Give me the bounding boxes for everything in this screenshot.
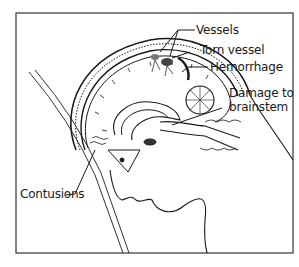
label-torn-vessel: Torn vessel — [200, 44, 264, 57]
head-injury-diagram — [0, 0, 299, 267]
label-hemorrhage: Hemorrhage — [210, 61, 283, 74]
label-damage-to: Damage to — [229, 87, 294, 100]
leader-lines — [66, 30, 222, 195]
label-brainstem: brainstem — [229, 101, 288, 114]
label-vessels: Vessels — [196, 24, 239, 37]
label-contusions: Contusions — [20, 188, 84, 201]
impact-surface — [29, 70, 129, 253]
